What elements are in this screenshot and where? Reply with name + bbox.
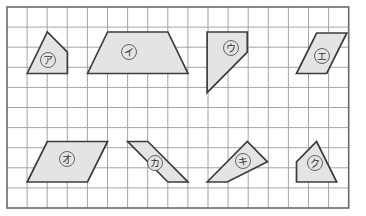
grid-figure-canvas: アイウエオカキク xyxy=(0,0,366,216)
shape-i-outline[interactable] xyxy=(88,32,189,74)
shape-o-label: オ xyxy=(62,154,72,165)
shapes-layer: アイウエオカキク xyxy=(27,32,347,182)
shape-ku-label: ク xyxy=(310,158,320,169)
shape-i-label: イ xyxy=(124,47,134,58)
shape-a-label: ア xyxy=(43,55,53,66)
shape-u-label: ウ xyxy=(226,43,236,54)
shape-ka-label: カ xyxy=(150,158,160,169)
shape-u[interactable]: ウ xyxy=(207,32,247,93)
shape-ki-label: キ xyxy=(238,156,248,167)
shape-worksheet: アイウエオカキク xyxy=(0,0,366,216)
shape-e-label: エ xyxy=(317,51,327,62)
shape-i[interactable]: イ xyxy=(88,32,189,74)
shape-a[interactable]: ア xyxy=(27,32,67,74)
